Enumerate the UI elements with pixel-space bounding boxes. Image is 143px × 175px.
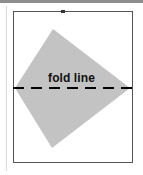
top-border-tick-icon xyxy=(61,10,65,13)
fold-line-figure-svg xyxy=(0,0,143,175)
figure-root: fold line xyxy=(0,0,143,175)
